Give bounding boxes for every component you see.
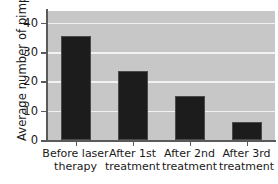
plot-area [47,11,275,140]
y-tick-mark [41,81,47,83]
y-tick-label: 20 [8,74,38,88]
x-tick-mark [247,141,249,146]
y-tick-label: 10 [8,104,38,118]
bar [61,36,91,140]
bar-chart: Average number of pimples 010203040 Befo… [0,0,277,184]
x-tick-label-line: treatment [211,161,278,174]
x-tick-label-line: After 3rd [211,148,278,161]
y-tick-mark [41,140,47,142]
y-tick-label: 40 [8,16,38,30]
y-tick-mark [41,111,47,113]
bar [232,122,262,140]
y-tick-label: 30 [8,45,38,59]
bar [118,71,148,140]
x-tick-mark [133,141,135,146]
y-tick-label: 0 [8,133,38,147]
y-tick-mark [41,52,47,54]
bar [175,96,205,140]
y-tick-mark [41,23,47,25]
x-tick-mark [190,141,192,146]
x-axis-line [46,140,276,142]
y-axis-line [46,9,48,142]
bars-group [47,11,275,140]
x-tick-mark [76,141,78,146]
x-tick-label: After 3rdtreatment [211,148,278,173]
